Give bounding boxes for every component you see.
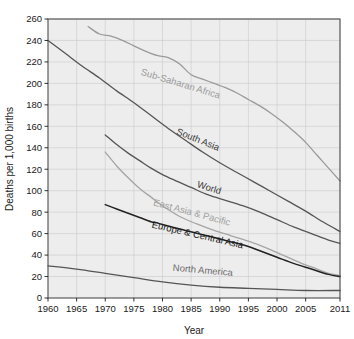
x-tick-label: 1990 [209,303,230,314]
y-tick-label: 240 [26,35,42,46]
y-axis-title: Deaths per 1,000 births [4,107,15,211]
x-tick-label: 2005 [295,303,316,314]
y-tick-label: 20 [31,271,42,282]
y-tick-label: 60 [31,228,42,239]
y-tick-label: 0 [37,292,42,303]
y-tick-label: 80 [31,207,42,218]
x-axis-tick-labels: 1960196519701975198019851990199520002005… [37,303,350,314]
plot-area-background [48,19,340,298]
x-tick-label: 1975 [123,303,144,314]
y-tick-label: 200 [26,78,42,89]
x-tick-label: 1970 [95,303,116,314]
chart-canvas: 020406080100120140160180200220240260 196… [0,0,354,339]
x-tick-label: 1965 [66,303,87,314]
mortality-line-chart: 020406080100120140160180200220240260 196… [0,0,354,339]
x-tick-label: 2000 [266,303,287,314]
y-tick-label: 180 [26,99,42,110]
x-axis-title: Year [184,325,205,336]
y-tick-label: 220 [26,56,42,67]
y-tick-label: 120 [26,164,42,175]
y-tick-label: 40 [31,249,42,260]
x-tick-label: 1980 [152,303,173,314]
y-tick-label: 140 [26,142,42,153]
x-tick-label: 2011 [330,303,350,314]
x-tick-label: 1960 [37,303,58,314]
y-tick-label: 100 [26,185,42,196]
y-tick-label: 160 [26,121,42,132]
y-tick-label: 260 [26,13,42,24]
x-tick-label: 1995 [238,303,259,314]
x-tick-label: 1985 [181,303,202,314]
